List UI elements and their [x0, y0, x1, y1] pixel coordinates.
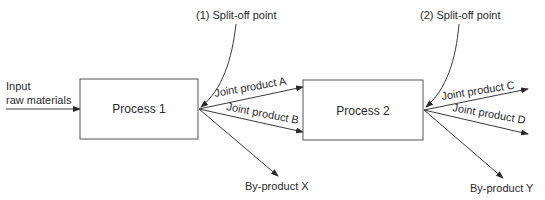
joint-product-diagram: Input raw materials Process 1 (1) Split-… — [0, 0, 545, 200]
joint-product-a-label: Joint product A — [213, 74, 287, 99]
by-product-x-label: By-product X — [245, 180, 309, 192]
input-label-line2: raw materials — [6, 94, 72, 106]
split-off-point-2-label: (2) Split-off point — [420, 9, 501, 21]
process-2-label: Process 2 — [336, 104, 390, 118]
input-label-line1: Input — [6, 80, 30, 92]
process-1-label: Process 1 — [112, 102, 166, 116]
joint-product-d-label: Joint product D — [452, 101, 527, 126]
joint-product-b-label: Joint product B — [226, 100, 300, 126]
by-product-y-arrow — [424, 110, 503, 178]
by-product-y-label: By-product Y — [470, 182, 534, 194]
joint-product-c-label: Joint product C — [440, 79, 515, 102]
split-off-point-1-label: (1) Split-off point — [196, 9, 277, 21]
